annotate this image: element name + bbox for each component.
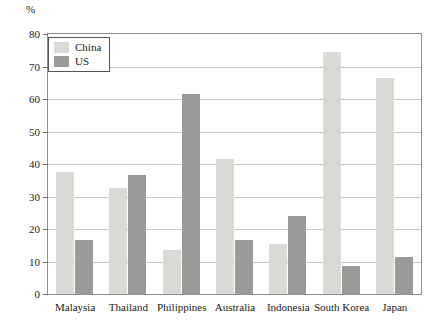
x-axis-label-thailand: Thailand	[109, 301, 148, 313]
y-axis-tick-label: 70	[29, 62, 40, 73]
bar-us-south-korea	[342, 266, 360, 294]
x-axis-label-japan: Japan	[382, 301, 407, 313]
bars-container: MalaysiaThailandPhilippinesAustraliaIndo…	[48, 34, 421, 294]
y-axis-tick-label: 30	[29, 192, 40, 203]
bar-group: Philippines	[163, 34, 200, 294]
legend-label-us: US	[75, 56, 89, 67]
bar-china-malaysia	[56, 172, 74, 294]
legend-label-china: China	[75, 42, 101, 53]
y-axis-tick	[43, 294, 48, 295]
y-axis-unit-label: %	[26, 4, 35, 15]
bar-us-philippines	[182, 94, 200, 294]
legend: China US	[48, 37, 110, 72]
x-axis-label-malaysia: Malaysia	[55, 301, 95, 313]
bar-group: Malaysia	[56, 34, 93, 294]
legend-item-us: US	[54, 56, 101, 67]
y-axis-tick-label: 20	[29, 224, 40, 235]
bar-china-philippines	[163, 250, 181, 294]
y-axis-tick-label: 80	[29, 29, 40, 40]
bar-china-thailand	[109, 188, 127, 294]
y-axis-tick-label: 10	[29, 257, 40, 268]
y-axis-tick-label: 0	[35, 289, 41, 300]
legend-swatch-us	[54, 56, 69, 67]
bar-group: Indonesia	[269, 34, 306, 294]
x-axis-label-philippines: Philippines	[157, 301, 207, 313]
y-axis-tick-label: 40	[29, 159, 40, 170]
bar-us-thailand	[128, 175, 146, 294]
y-axis-tick-label: 50	[29, 127, 40, 138]
bar-group: Australia	[216, 34, 253, 294]
bar-china-indonesia	[269, 244, 287, 294]
bar-china-australia	[216, 159, 234, 294]
bar-us-australia	[235, 240, 253, 294]
y-axis-tick-label: 60	[29, 94, 40, 105]
x-axis-label-indonesia: Indonesia	[267, 301, 310, 313]
bar-group: Thailand	[109, 34, 146, 294]
bar-china-south-korea	[323, 52, 341, 294]
bar-group: Japan	[376, 34, 413, 294]
bar-us-indonesia	[288, 216, 306, 294]
bar-chart: % 01020304050607080 MalaysiaThailandPhil…	[0, 0, 438, 328]
bar-us-malaysia	[75, 240, 93, 294]
plot-area: 01020304050607080 MalaysiaThailandPhilip…	[47, 33, 422, 295]
x-axis-label-australia: Australia	[215, 301, 255, 313]
bar-us-japan	[395, 257, 413, 294]
bar-group: South Korea	[323, 34, 360, 294]
bar-china-japan	[376, 78, 394, 294]
legend-item-china: China	[54, 42, 101, 53]
x-axis-label-south-korea: South Korea	[314, 301, 369, 313]
legend-swatch-china	[54, 42, 69, 53]
